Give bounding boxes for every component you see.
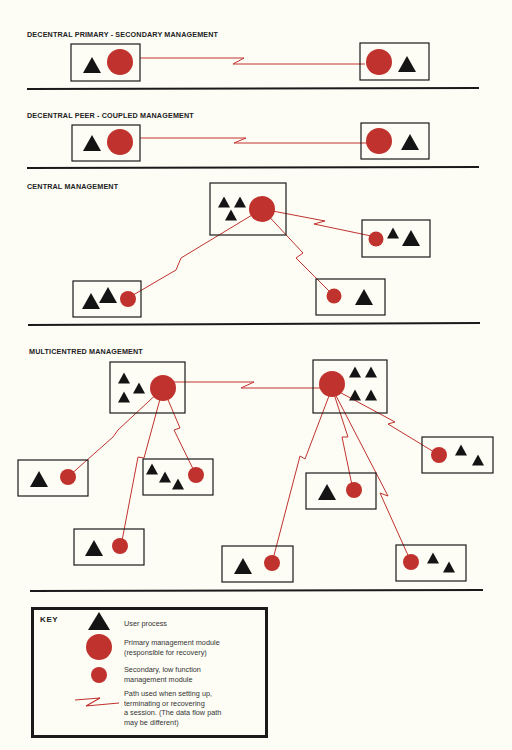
key-label-user-process: User process	[124, 619, 167, 629]
key-label-primary-module: Primary management module (responsible f…	[124, 638, 220, 657]
user-process-icon	[83, 135, 101, 151]
user-process-icon	[427, 553, 439, 564]
user-process-icon	[118, 373, 130, 384]
user-process-icon	[365, 390, 377, 401]
primary-module-icon	[107, 129, 133, 155]
secondary-module-icon	[60, 469, 76, 485]
section-peer-coupled	[27, 123, 479, 168]
user-process-icon	[402, 230, 420, 246]
section-title-multicentred: MULTICENTRED MANAGEMENT	[29, 347, 143, 356]
secondary-module-icon	[369, 232, 384, 247]
user-process-icon	[234, 197, 246, 208]
user-process-icon	[365, 367, 377, 378]
primary-module-icon	[366, 128, 392, 154]
user-process-icon	[398, 56, 416, 72]
user-process-icon	[401, 134, 419, 150]
section-central	[28, 183, 480, 325]
node-box	[222, 546, 293, 582]
node-box	[74, 529, 144, 565]
node-box	[306, 473, 376, 509]
secondary-module-icon	[264, 555, 280, 571]
user-process-icon	[82, 293, 100, 309]
key-title: KEY	[40, 615, 58, 624]
user-process-icon	[85, 540, 103, 556]
user-process-icon	[387, 228, 399, 239]
user-process-icon	[318, 484, 336, 500]
primary-module-icon	[366, 49, 392, 75]
user-process-icon	[234, 558, 252, 574]
node-box	[18, 460, 88, 496]
user-process-icon	[99, 287, 117, 303]
user-process-icon	[146, 464, 158, 475]
user-process-icon	[355, 289, 373, 305]
secondary-module-icon	[431, 447, 447, 463]
secondary-module-icon	[120, 291, 136, 307]
secondary-module-icon	[188, 467, 204, 483]
section-multicentred	[18, 360, 493, 591]
user-process-icon	[349, 367, 361, 378]
user-process-icon	[349, 390, 361, 401]
primary-module-icon	[150, 375, 176, 401]
secondary-module-icon	[346, 482, 362, 498]
user-process-icon	[172, 479, 184, 490]
secondary-module-icon	[327, 289, 342, 304]
user-process-icon	[30, 471, 48, 487]
secondary-module-icon	[403, 554, 419, 570]
section-title-primary-secondary: DECENTRAL PRIMARY - SECONDARY MANAGEMENT	[27, 30, 218, 39]
user-process-icon	[133, 383, 145, 394]
user-process-icon	[218, 197, 230, 208]
primary-module-icon	[107, 49, 133, 75]
user-process-icon	[159, 472, 171, 483]
user-process-icon	[472, 455, 484, 466]
section-title-central: CENTRAL MANAGEMENT	[27, 182, 118, 191]
node-box	[316, 279, 385, 315]
user-process-icon	[83, 57, 101, 73]
user-process-icon	[225, 210, 237, 221]
section-title-peer-coupled: DECENTRAL PEER - COUPLED MANAGEMENT	[27, 111, 194, 120]
key-label-session-path: Path used when setting up, terminating o…	[124, 689, 221, 727]
section-primary-secondary	[27, 43, 479, 89]
user-process-icon	[455, 445, 467, 456]
primary-module-icon	[249, 196, 275, 222]
key-label-secondary-module: Secondary, low function management modul…	[124, 665, 201, 684]
user-process-icon	[443, 562, 455, 573]
primary-module-icon	[319, 371, 345, 397]
user-process-icon	[118, 392, 130, 403]
secondary-module-icon	[112, 538, 128, 554]
